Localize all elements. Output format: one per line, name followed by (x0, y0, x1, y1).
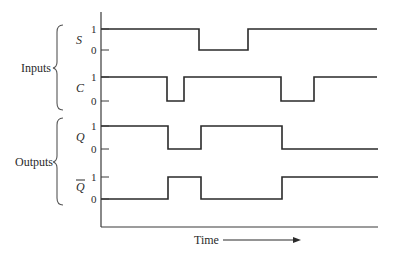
inputs-brace (53, 25, 63, 110)
outputs-brace (53, 118, 63, 205)
level-label-low: 0 (91, 44, 97, 56)
level-label-high: 1 (91, 71, 97, 83)
signals: 01S01C01Q01Q (76, 23, 378, 205)
time-label: Time (194, 233, 219, 247)
signal-label-q-bar: Q (76, 180, 85, 194)
timing-diagram: Inputs Outputs 01S01C01Q01Q Time (0, 0, 395, 255)
inputs-label: Inputs (21, 61, 51, 75)
waveform-q (101, 126, 378, 149)
level-label-low: 0 (91, 143, 97, 155)
waveform-c (101, 77, 377, 101)
waveform-q-bar (101, 177, 378, 199)
level-label-high: 1 (91, 120, 97, 132)
outputs-label: Outputs (15, 155, 53, 169)
level-label-low: 0 (91, 193, 97, 205)
signal-label-c: C (76, 81, 85, 95)
signal-label-q: Q (76, 130, 85, 144)
level-label-low: 0 (91, 95, 97, 107)
signal-label-s: S (76, 33, 82, 47)
waveform-s (101, 29, 377, 50)
level-label-high: 1 (91, 23, 97, 35)
level-label-high: 1 (91, 171, 97, 183)
arrow-head-icon (293, 237, 301, 243)
